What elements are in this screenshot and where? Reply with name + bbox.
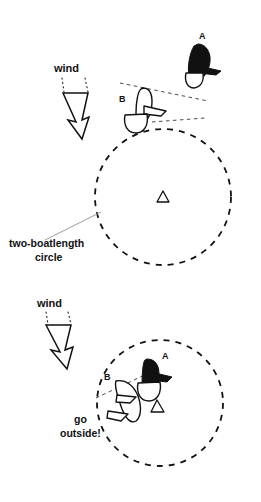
wind-label-top: wind	[53, 62, 79, 74]
bottom-panel: wind go outside! A	[36, 297, 223, 466]
wind-arrow-icon-top	[62, 78, 89, 139]
sailing-rules-diagram: two-boatlength circle wind A	[0, 0, 261, 502]
top-panel: two-boatlength circle wind A	[9, 31, 231, 265]
sailboat-dark-icon-A-top	[185, 44, 221, 88]
boat-label-A-bottom: A	[162, 351, 169, 361]
two-boatlength-circle-bottom	[97, 340, 223, 466]
boat-label-B-top: B	[119, 94, 126, 104]
two-boatlength-circle-label-line2: circle	[35, 251, 63, 263]
instruction-label-line1: go	[74, 413, 87, 425]
instruction-label-line2: outside!	[60, 427, 101, 439]
boat-label-B-bottom: B	[104, 372, 111, 382]
sailboat-light-icon-B-top	[125, 88, 166, 133]
mark-triangle-icon-bottom	[151, 400, 164, 412]
boat-label-A-top: A	[199, 31, 206, 41]
sailboat-dark-icon-A-bottom	[138, 359, 172, 401]
course-line-top	[152, 118, 205, 122]
wind-arrow-icon-bottom	[46, 312, 73, 369]
circle-label-leader-line	[45, 212, 101, 240]
mark-triangle-icon-top	[157, 191, 169, 202]
diagram-canvas: two-boatlength circle wind A	[0, 0, 261, 502]
sailboat-light-icon-B-bottom	[107, 381, 140, 422]
two-boatlength-circle-label-line1: two-boatlength	[9, 237, 84, 249]
wind-label-bottom: wind	[36, 297, 62, 309]
